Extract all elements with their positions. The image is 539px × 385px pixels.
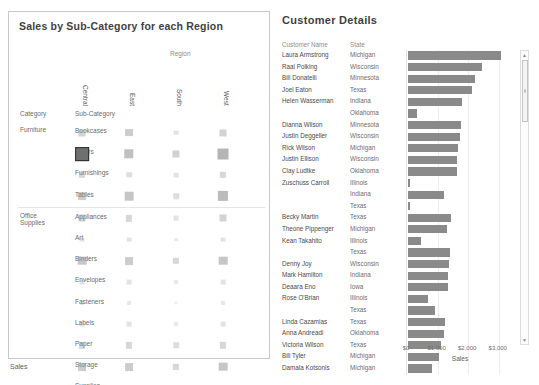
customer-row[interactable]: Theone PippengerMichigan <box>282 224 510 236</box>
matrix-cell[interactable] <box>126 215 132 221</box>
customer-row[interactable]: Becky MartinTexas <box>282 212 510 224</box>
sales-bar[interactable] <box>408 133 460 141</box>
customer-row[interactable]: Denny JoyWisconsin <box>282 259 510 271</box>
matrix-cell[interactable] <box>221 237 226 242</box>
sales-bar[interactable] <box>408 156 457 164</box>
matrix-cell[interactable] <box>79 342 85 348</box>
matrix-cell[interactable] <box>127 237 132 242</box>
matrix-cell[interactable] <box>220 172 226 178</box>
matrix-cell[interactable] <box>220 342 226 348</box>
matrix-cell[interactable] <box>125 257 133 265</box>
sales-bar[interactable] <box>408 179 410 187</box>
customer-row[interactable]: Zuschuss CarrollIllinois <box>282 178 510 190</box>
customer-row[interactable]: Mark HamiltonIndiana <box>282 270 510 282</box>
sales-bar[interactable] <box>408 121 461 129</box>
sales-bar[interactable] <box>408 202 410 210</box>
matrix-cell[interactable] <box>126 172 132 178</box>
sales-bar[interactable] <box>408 318 445 326</box>
customer-row[interactable]: Helen WassermanIndiana <box>282 96 510 108</box>
matrix-cell[interactable] <box>174 216 179 221</box>
matrix-cell[interactable] <box>174 322 178 326</box>
sales-bar[interactable] <box>408 63 482 71</box>
matrix-cell[interactable] <box>78 215 85 222</box>
matrix-cell[interactable] <box>127 280 132 285</box>
matrix-cell[interactable] <box>174 130 179 135</box>
customer-row[interactable]: Bill DonatelliMinnesota <box>282 73 510 85</box>
customer-row[interactable]: Justin DeggellerWisconsin <box>282 131 510 143</box>
sales-bar[interactable] <box>408 295 428 303</box>
scroll-down-icon[interactable]: ▼ <box>521 336 528 344</box>
customer-row[interactable]: Deaara EnoIowa <box>282 282 510 294</box>
matrix-cell[interactable] <box>221 280 226 285</box>
customer-row[interactable]: Raal PolkingWisconsin <box>282 62 510 74</box>
sales-bar[interactable] <box>408 260 449 268</box>
matrix-cell[interactable] <box>218 191 228 201</box>
customer-row[interactable]: Rose O'BrianIllinois <box>282 293 510 305</box>
scroll-up-icon[interactable]: ▲ <box>521 51 528 59</box>
matrix-cell[interactable] <box>125 192 134 201</box>
matrix-cell[interactable] <box>127 301 131 305</box>
matrix-cell[interactable] <box>79 172 85 178</box>
customer-row[interactable]: Kean TakahitoIllinois <box>282 236 510 248</box>
sales-bar[interactable] <box>408 191 444 199</box>
customer-row[interactable]: Anna AndreadiOklahoma <box>282 328 510 340</box>
matrix-cell[interactable] <box>218 148 229 159</box>
sales-bar[interactable] <box>408 272 448 280</box>
matrix-cell[interactable] <box>80 280 85 285</box>
matrix-cell[interactable] <box>127 322 132 327</box>
sales-bar[interactable] <box>408 98 462 106</box>
customer-row[interactable]: Texas <box>282 201 510 213</box>
matrix-cell[interactable] <box>174 280 178 284</box>
customer-row[interactable]: Linda CazamiasTexas <box>282 317 510 329</box>
matrix-cell[interactable] <box>78 363 86 371</box>
sales-bar[interactable] <box>408 75 475 83</box>
matrix-cell[interactable] <box>124 149 133 158</box>
sales-bar[interactable] <box>408 225 447 233</box>
matrix-cell[interactable] <box>173 343 179 349</box>
matrix-cell[interactable] <box>80 301 84 305</box>
matrix-cell[interactable] <box>174 302 177 305</box>
customer-row[interactable]: Rick WilsonMichigan <box>282 143 510 155</box>
scrollbar-thumb[interactable] <box>522 60 528 122</box>
matrix-cell[interactable] <box>173 258 179 264</box>
matrix-cell[interactable] <box>221 322 226 327</box>
matrix-cell[interactable] <box>126 342 132 348</box>
sales-bar[interactable] <box>408 306 435 314</box>
matrix-cell[interactable] <box>219 362 228 371</box>
customer-row[interactable]: Joel EatonTexas <box>282 85 510 97</box>
customer-list-scrollbar[interactable]: ▲ ▼ <box>520 50 529 345</box>
matrix-cell[interactable] <box>75 147 89 161</box>
sales-bar[interactable] <box>408 237 421 245</box>
sales-bar[interactable] <box>408 167 457 175</box>
customer-row[interactable]: Oklahoma <box>282 108 510 120</box>
sales-bar[interactable] <box>408 144 458 152</box>
matrix-cell[interactable] <box>125 129 133 137</box>
matrix-cell[interactable] <box>221 301 225 305</box>
matrix-cell[interactable] <box>173 364 179 370</box>
customer-row[interactable]: Laura ArmstrongMichigan <box>282 50 510 62</box>
sales-bar[interactable] <box>408 109 417 117</box>
matrix-cell[interactable] <box>219 256 228 265</box>
matrix-cell[interactable] <box>173 193 179 199</box>
matrix-cell[interactable] <box>78 129 85 136</box>
sales-bar[interactable] <box>408 283 448 291</box>
customer-row[interactable]: Texas <box>282 305 510 317</box>
matrix-cell[interactable] <box>219 129 226 136</box>
matrix-cell[interactable] <box>80 237 85 242</box>
matrix-cell[interactable] <box>174 173 179 178</box>
sales-bar[interactable] <box>408 330 444 338</box>
sales-bar[interactable] <box>408 214 451 222</box>
sales-bar[interactable] <box>408 86 472 94</box>
matrix-cell[interactable] <box>80 322 85 327</box>
matrix-cell[interactable] <box>174 238 178 242</box>
customer-row[interactable]: Dianna WilsonMinnesota <box>282 120 510 132</box>
sales-bar[interactable] <box>408 248 450 256</box>
matrix-cell[interactable] <box>172 150 179 157</box>
customer-row[interactable]: Clay LudtkeOklahoma <box>282 166 510 178</box>
customer-row[interactable]: Indiana <box>282 189 510 201</box>
matrix-cell[interactable] <box>78 192 86 200</box>
matrix-cell[interactable] <box>125 363 133 371</box>
matrix-cell[interactable] <box>78 256 87 265</box>
sales-bar[interactable] <box>408 51 501 59</box>
customer-row[interactable]: Justin EllisonWisconsin <box>282 154 510 166</box>
